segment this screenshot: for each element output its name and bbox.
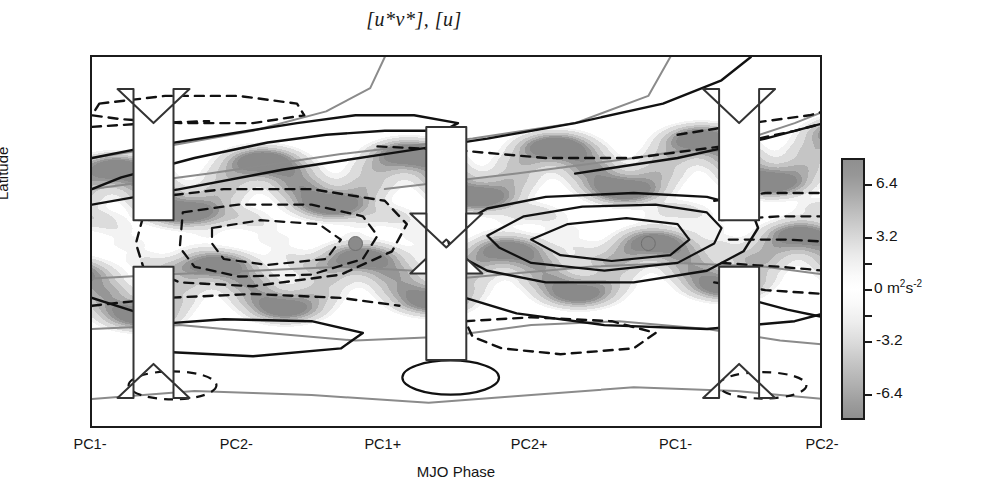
x-axis-label: MJO Phase xyxy=(90,463,822,480)
colorbar-tick-0 xyxy=(865,184,872,186)
colorbar-label-5: -3.2 xyxy=(876,331,903,349)
colorbar-tick-6 xyxy=(865,394,872,396)
cb-unit-zero: 0 m xyxy=(874,279,900,296)
divergence-left-arrow-up xyxy=(118,89,190,220)
y-axis-label: Latitude xyxy=(0,147,11,200)
divergence-right-arrow-down xyxy=(703,267,775,398)
figure-root: [u*v*], [u] Latitude MJO Phase 300-30 PC… xyxy=(0,0,994,496)
colorbar-label-6: -6.4 xyxy=(876,384,903,402)
solid-cell-south-mid xyxy=(402,360,499,394)
equator-marker-1 xyxy=(641,237,655,251)
dashed-cell-north-left xyxy=(92,96,304,123)
colorbar-tick-4 xyxy=(865,315,872,317)
x-tick-label-2: PC1+ xyxy=(338,436,428,452)
equator-marker-0 xyxy=(349,237,363,251)
x-tick-label-3: PC2+ xyxy=(484,436,574,452)
plot-canvas-host xyxy=(92,57,820,426)
plot-area xyxy=(90,55,822,428)
contour-overlay xyxy=(92,57,822,428)
colorbar-tick-2 xyxy=(865,263,872,265)
cb-unit-sup2: -2 xyxy=(913,278,922,289)
dashed-cell-right-b xyxy=(729,240,822,242)
dashed-cell-left-mid xyxy=(180,205,378,277)
dashed-cell-left-inner xyxy=(212,220,341,265)
x-tick-label-1: PC2- xyxy=(191,436,281,452)
colorbar-tick-1 xyxy=(865,237,872,239)
solid-cell-inner xyxy=(531,218,689,261)
colorbar-label-0: 6.4 xyxy=(876,174,898,192)
colorbar xyxy=(841,158,865,420)
colorbar-unit-label: 0 m2s-2 xyxy=(874,278,922,297)
x-tick-label-5: PC2- xyxy=(777,436,867,452)
cb-unit-base: s xyxy=(905,279,913,296)
colorbar-tick-3 xyxy=(865,289,872,291)
figure-title: [u*v*], [u] xyxy=(0,8,828,31)
x-tick-label-0: PC1- xyxy=(45,436,135,452)
colorbar-tick-5 xyxy=(865,341,872,343)
colorbar-label-1: 3.2 xyxy=(876,227,898,245)
divergence-left-arrow-down xyxy=(118,267,190,398)
x-tick-label-4: PC1- xyxy=(631,436,721,452)
